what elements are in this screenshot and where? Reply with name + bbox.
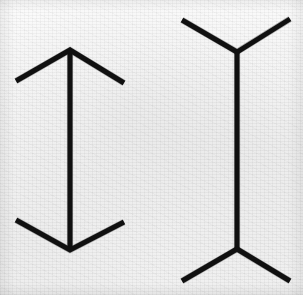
right-bottom-fins-ink-bleed	[182, 249, 290, 281]
left-figure-group	[16, 50, 124, 250]
right-figure-top-arrowhead-outward	[182, 19, 290, 52]
right-figure-bottom-arrowhead-outward	[182, 249, 290, 281]
right-figure-group	[182, 19, 290, 281]
muller-lyer-figure: Muller-Lyer illusion	[0, 0, 303, 295]
illusion-figure-canvas: Muller-Lyer illusion	[0, 0, 303, 295]
right-top-fins-ink-bleed	[182, 19, 290, 52]
